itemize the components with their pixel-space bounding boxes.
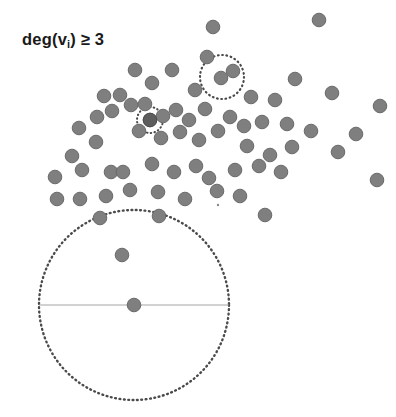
graph-node [244, 90, 258, 104]
graph-node [206, 20, 220, 34]
graph-node [93, 211, 107, 225]
graph-node [192, 133, 206, 147]
graph-node [188, 83, 202, 97]
graph-node [124, 98, 138, 112]
graph-node [228, 163, 242, 177]
graph-node [263, 148, 277, 162]
scatter-canvas [0, 0, 396, 417]
graph-node [165, 63, 179, 77]
graph-node [73, 192, 87, 206]
graph-node [50, 192, 64, 206]
graph-node [128, 63, 142, 77]
graph-node [173, 125, 187, 139]
graph-node [123, 183, 137, 197]
graph-node [127, 298, 141, 312]
graph-node [156, 109, 170, 123]
graph-node [145, 76, 159, 90]
graph-node [349, 127, 363, 141]
graph-node [226, 64, 240, 78]
graph-node [312, 13, 326, 27]
graph-node [115, 248, 129, 262]
speck [217, 204, 219, 206]
graph-node [274, 165, 288, 179]
graph-node [75, 163, 89, 177]
graph-node [138, 97, 152, 111]
graph-node [152, 209, 166, 223]
graph-node [48, 170, 62, 184]
graph-node-highlighted [143, 113, 157, 127]
graph-node [72, 121, 86, 135]
graph-node [178, 192, 192, 206]
graph-node [116, 165, 130, 179]
graph-node [89, 135, 103, 149]
graph-node [211, 124, 225, 138]
graph-node [65, 149, 79, 163]
graph-node [97, 89, 111, 103]
graph-node [370, 173, 384, 187]
graph-node [105, 104, 119, 118]
graph-node [90, 110, 104, 124]
graph-node [252, 159, 266, 173]
graph-node [223, 110, 237, 124]
graph-node [167, 165, 181, 179]
graph-node [255, 115, 269, 129]
graph-node [145, 157, 159, 171]
graph-node [331, 145, 345, 159]
graph-node [280, 117, 294, 131]
graph-node [113, 88, 127, 102]
graph-node [210, 184, 224, 198]
graph-node [258, 208, 272, 222]
graph-node [325, 86, 339, 100]
graph-node [202, 171, 216, 185]
graph-node [151, 185, 165, 199]
graph-node [240, 139, 254, 153]
graph-node [182, 113, 196, 127]
graph-node [233, 189, 247, 203]
graph-node [154, 131, 168, 145]
graph-node [285, 140, 299, 154]
node-layer [48, 13, 387, 312]
graph-node [214, 71, 228, 85]
graph-node [200, 50, 214, 64]
graph-node [288, 72, 302, 86]
graph-node [373, 99, 387, 113]
graph-node [268, 93, 282, 107]
graph-node [132, 124, 146, 138]
graph-node [169, 103, 183, 117]
graph-node [237, 119, 251, 133]
graph-node [189, 159, 203, 173]
graph-node [304, 124, 318, 138]
graph-node [198, 102, 212, 116]
graph-node [99, 189, 113, 203]
graph-figure: deg(vi) ≥ 3 [0, 0, 396, 417]
